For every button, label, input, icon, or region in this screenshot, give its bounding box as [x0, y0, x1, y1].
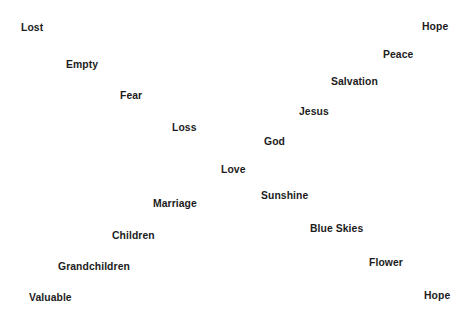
word-label: Grandchildren	[58, 260, 130, 273]
word-label: Flower	[369, 256, 403, 269]
word-label: Marriage	[153, 197, 197, 210]
word-label: Salvation	[331, 75, 378, 88]
word-label: Empty	[66, 58, 98, 71]
word-label: Sunshine	[261, 189, 308, 202]
word-label: Hope	[422, 20, 448, 33]
word-label: Children	[112, 229, 155, 242]
word-label: Jesus	[299, 105, 329, 118]
word-label: Blue Skies	[310, 222, 363, 235]
word-label: Loss	[172, 121, 197, 134]
word-label: Peace	[383, 48, 413, 61]
word-label: God	[264, 135, 285, 148]
word-label: Lost	[21, 21, 43, 34]
word-label: Love	[221, 163, 246, 176]
word-label: Valuable	[29, 291, 72, 304]
word-label: Hope	[424, 289, 450, 302]
word-label: Fear	[120, 89, 142, 102]
word-scatter-canvas: LostHopeEmptyPeaceSalvationFearJesusLoss…	[0, 0, 476, 323]
